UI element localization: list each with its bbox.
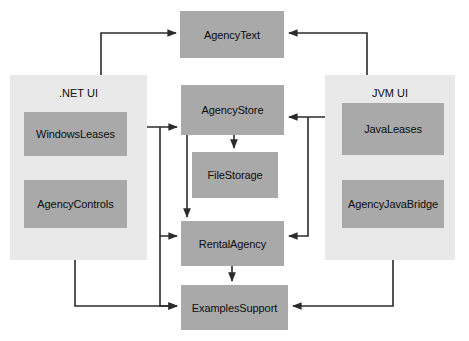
node-label: WindowsLeases [36,128,115,140]
node-label: ExamplesSupport [192,302,277,314]
panel-label-jvm: JVM UI [325,87,455,99]
panel-label-dotnet: .NET UI [10,87,147,99]
node-javaleases[interactable]: JavaLeases [342,103,444,155]
node-agencytext[interactable]: AgencyText [180,11,284,58]
node-rentalagency[interactable]: RentalAgency [181,221,284,266]
node-label: RentalAgency [199,238,266,250]
node-label: AgencyStore [202,104,264,116]
panel-dotnet [10,75,147,260]
node-examplessupport[interactable]: ExamplesSupport [181,285,288,330]
node-label: FileStorage [207,169,262,181]
node-label: AgencyControls [37,198,113,210]
node-agencyjavabridge[interactable]: AgencyJavaBridge [342,180,444,228]
diagram-canvas: .NET UIJVM UIAgencyTextAgencyStoreFileSt… [0,0,469,341]
edge-javaleases-to-rentalagency [289,117,308,236]
node-filestorage[interactable]: FileStorage [192,152,278,198]
node-windowsleases[interactable]: WindowsLeases [24,112,127,156]
node-label: JavaLeases [364,123,422,135]
node-label: AgencyText [204,29,260,41]
edge-windowsleases-to-examplessupport [160,236,177,306]
node-agencycontrols[interactable]: AgencyControls [24,180,127,228]
node-agencystore[interactable]: AgencyStore [181,85,284,135]
edge-windowsleases-to-rentalagency [160,127,177,236]
node-label: AgencyJavaBridge [348,198,438,210]
